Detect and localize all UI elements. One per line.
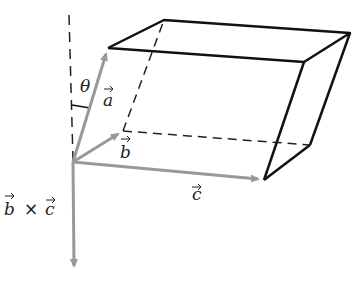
vector-b-cross-c [73, 162, 74, 266]
label-cross-b: b [4, 199, 15, 219]
label-cross-times: × [24, 199, 38, 219]
dashed-vertical-reference [69, 15, 73, 160]
angle-marker [72, 105, 90, 108]
hidden-edge-b-to-bottomback [123, 131, 310, 145]
label-a: a [103, 90, 113, 110]
back-right-edge [310, 33, 350, 145]
top-face-edges [108, 20, 350, 62]
label-b: b [120, 142, 131, 162]
vector-c [73, 162, 258, 179]
front-right-edge [264, 62, 304, 180]
label-theta: θ [80, 76, 90, 96]
parallelepiped-diagram: θ a b c b × c [0, 0, 360, 286]
